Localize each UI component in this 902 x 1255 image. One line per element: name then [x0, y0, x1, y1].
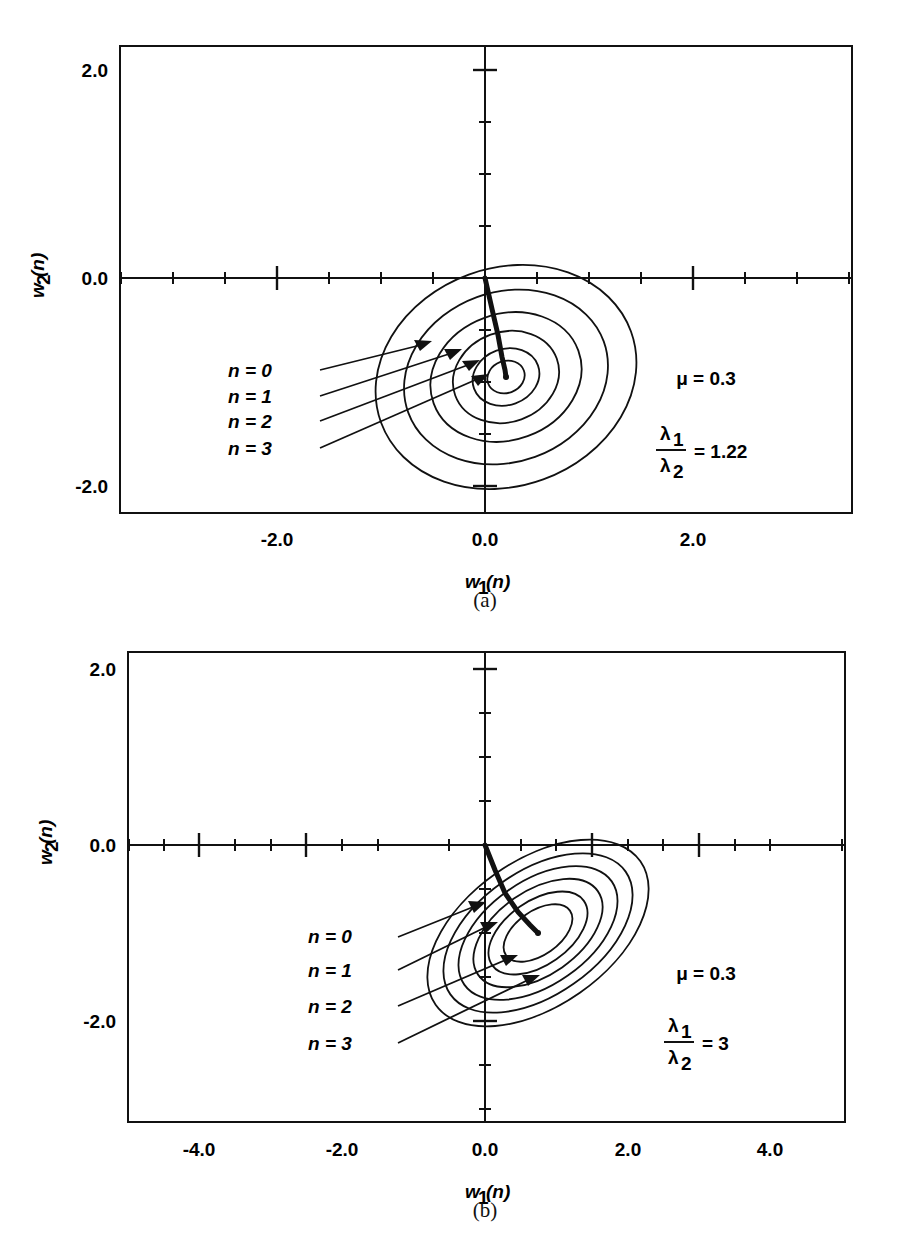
param-eigenvalue-ratio-a: λ 1 λ 2 = 1.22 — [656, 423, 747, 482]
x-tick-label-2-a: 2.0 — [680, 529, 706, 550]
annotation-label-n0-b: n = 0 — [308, 926, 352, 947]
ratio-numerator-sub-b: 1 — [681, 1021, 692, 1042]
x-tick-label-4-b: 4.0 — [757, 1139, 783, 1160]
y-tick-label-neg2-b: -2.0 — [83, 1011, 116, 1032]
ratio-numerator-a: λ — [660, 423, 671, 444]
annotation-label-n1-b: n = 1 — [308, 960, 352, 981]
y-tick-label-2-b: 2.0 — [90, 659, 116, 680]
param-mu-b: μ = 0.3 — [676, 963, 736, 984]
trajectory-a — [485, 278, 506, 377]
figure-root: n = 0 n = 1 n = 2 n = 3 -2.0 0.0 2.0 2.0… — [0, 0, 902, 1255]
y-tick-label-0-a: 0.0 — [82, 268, 108, 289]
annotation-label-n3-b: n = 3 — [308, 1033, 352, 1054]
plot-frame-b — [128, 652, 845, 1122]
panel-caption-b: (b) — [455, 1198, 515, 1223]
panel-b: n = 0 n = 1 n = 2 n = 3 -4.0 -2.0 0.0 2.… — [0, 640, 902, 1255]
panel-caption-a: (a) — [455, 588, 515, 613]
param-mu-a: μ = 0.3 — [676, 368, 736, 389]
panel-a-plot: n = 0 n = 1 n = 2 n = 3 -2.0 0.0 2.0 2.0… — [0, 0, 902, 620]
ratio-value-a: = 1.22 — [694, 441, 747, 462]
annotation-label-n2-a: n = 2 — [228, 411, 272, 432]
y-tick-label-0-b: 0.0 — [90, 835, 116, 856]
ratio-denominator-b: λ — [668, 1047, 679, 1068]
trajectory-endpoint-a — [503, 374, 509, 380]
ratio-denominator-a: λ — [660, 455, 671, 476]
ratio-denominator-sub-b: 2 — [681, 1053, 692, 1074]
y-axis-title-b: w 2 (n) — [35, 820, 62, 865]
y-tick-label-2-a: 2.0 — [82, 60, 108, 81]
x-tick-label-2-b: 2.0 — [615, 1139, 641, 1160]
x-tick-label-neg4-b: -4.0 — [183, 1139, 216, 1160]
ratio-denominator-sub-a: 2 — [673, 461, 684, 482]
y-axis-title-arg-b: (n) — [35, 820, 56, 844]
trajectory-endpoint-b — [535, 930, 541, 936]
ratio-numerator-sub-a: 1 — [673, 429, 684, 450]
annotation-label-n0-a: n = 0 — [228, 360, 272, 381]
x-tick-label-0-b: 0.0 — [472, 1139, 498, 1160]
y-axis-title-arg-a: (n) — [27, 253, 48, 277]
annotation-label-n1-a: n = 1 — [228, 386, 272, 407]
x-tick-label-neg2-b: -2.0 — [326, 1139, 359, 1160]
param-eigenvalue-ratio-b: λ 1 λ 2 = 3 — [664, 1015, 729, 1074]
x-tick-label-neg2-a: -2.0 — [261, 529, 294, 550]
ratio-value-b: = 3 — [702, 1033, 729, 1054]
annotation-label-n3-a: n = 3 — [228, 438, 272, 459]
annotation-arrowheads-a — [414, 340, 489, 386]
panel-b-plot: n = 0 n = 1 n = 2 n = 3 -4.0 -2.0 0.0 2.… — [0, 640, 902, 1255]
ratio-numerator-b: λ — [668, 1015, 679, 1036]
x-tick-label-0-a: 0.0 — [472, 529, 498, 550]
y-axis-title-a: w 2 (n) — [27, 253, 54, 298]
panel-a: n = 0 n = 1 n = 2 n = 3 -2.0 0.0 2.0 2.0… — [0, 0, 902, 620]
y-tick-label-neg2-a: -2.0 — [75, 476, 108, 497]
annotation-label-n2-b: n = 2 — [308, 996, 352, 1017]
